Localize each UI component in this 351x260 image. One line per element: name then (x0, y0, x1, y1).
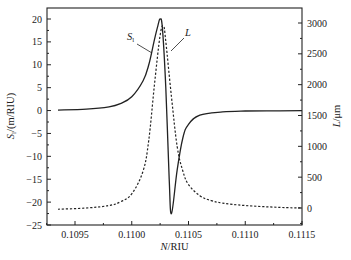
y-left-axis-label: Sl/(m/RIU) (5, 92, 18, 139)
y-left-tick-label: 0 (37, 105, 42, 116)
series-layer (58, 19, 302, 214)
x-tick-label: 0.1100 (118, 229, 145, 240)
y-right-tick-label: 2500 (307, 48, 327, 59)
y-right-tick-label: 0 (307, 203, 312, 214)
y-left-tick-label: −20 (26, 197, 42, 208)
chart: 0.10950.11000.11050.11100.111520151050−5… (0, 0, 351, 260)
y-left-tick-label: −15 (26, 174, 42, 185)
y-left-tick-label: 5 (37, 82, 42, 93)
y-right-tick-label: 1500 (307, 110, 327, 121)
y-right-tick-label: 1000 (307, 141, 327, 152)
y-right-tick-label: 3000 (307, 18, 327, 29)
annotation-L: L (184, 27, 191, 38)
axis-ticks: 0.10950.11000.11050.11100.111520151050−5… (26, 14, 327, 241)
y-right-tick-label: 500 (307, 172, 322, 183)
y-right-tick-label: 2000 (307, 79, 327, 90)
annotation-S-l: Sl (127, 31, 134, 44)
series-L-line (58, 26, 302, 210)
annotations: SlL (127, 27, 191, 53)
x-tick-label: 0.1095 (61, 229, 89, 240)
x-tick-label: 0.1110 (232, 229, 259, 240)
y-right-axis-label: L/μm (331, 105, 342, 129)
y-left-tick-label: 20 (32, 14, 42, 25)
series-S-l-line (58, 19, 302, 214)
x-tick-label: 0.1105 (175, 229, 202, 240)
annotation-L-leader (171, 38, 184, 51)
y-left-tick-label: −5 (31, 128, 42, 139)
x-axis-label: N/RIU (159, 241, 188, 252)
y-left-tick-label: 10 (32, 59, 42, 70)
annotation-S-l-leader (137, 44, 152, 53)
y-left-tick-label: −10 (26, 151, 42, 162)
y-left-tick-label: −25 (26, 220, 42, 231)
x-tick-label: 0.1115 (289, 229, 316, 240)
y-left-tick-label: 15 (32, 36, 42, 47)
